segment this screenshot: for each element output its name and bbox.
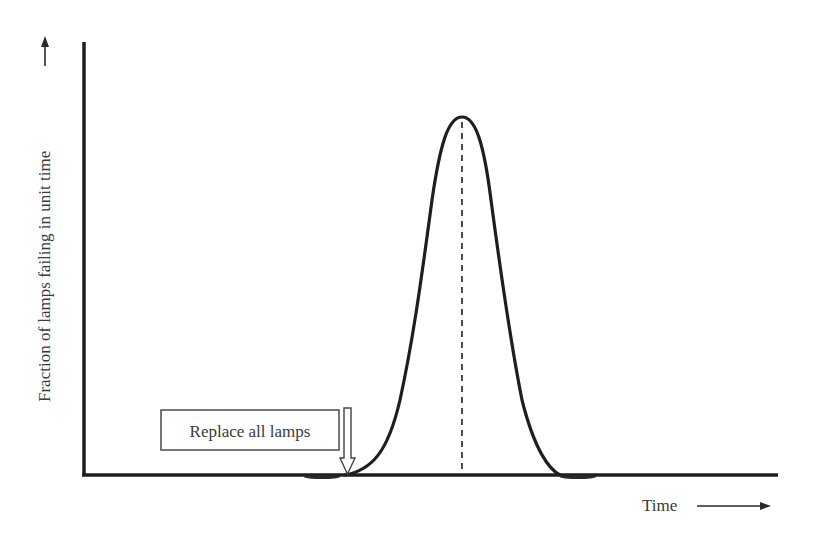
baseline-smudge-right (560, 475, 596, 479)
y-axis-label: Fraction of lamps failing in unit time (35, 151, 54, 402)
y-axis-label-group: Fraction of lamps failing in unit time (35, 151, 54, 402)
replace-all-lamps-label: Replace all lamps (190, 422, 311, 441)
x-axis-label: Time (642, 496, 677, 515)
reliability-diagram: Fraction of lamps failing in unit time T… (0, 0, 816, 542)
hollow-down-arrow-icon (340, 408, 355, 474)
failure-distribution-curve (345, 117, 560, 475)
baseline-smudge-left (304, 475, 340, 479)
x-axis-arrow-icon (697, 502, 771, 510)
y-axis-arrow-icon (41, 36, 49, 66)
